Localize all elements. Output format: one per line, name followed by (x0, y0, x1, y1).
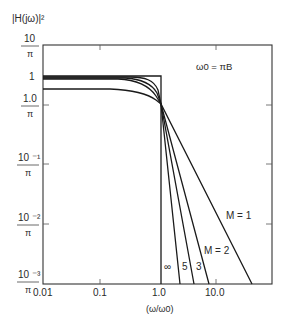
x-ticks (100, 45, 216, 284)
svg-text:∞: ∞ (164, 261, 171, 272)
filter-response-chart: |H(jω)|² 10 π 1 1.0 π 10 ⁻¹ π 10 ⁻² π 10… (0, 0, 283, 327)
svg-text:π: π (27, 49, 33, 59)
svg-text:1.0: 1.0 (23, 93, 37, 104)
curve-m3 (43, 78, 194, 284)
svg-text:10 ⁻²: 10 ⁻² (18, 212, 41, 223)
svg-text:π: π (25, 228, 31, 238)
y-ticks (43, 105, 272, 224)
svg-text:π: π (27, 109, 33, 119)
svg-text:10: 10 (24, 33, 36, 44)
svg-text:3: 3 (196, 261, 202, 272)
svg-text:0.01: 0.01 (33, 287, 53, 298)
omega0-annotation: ω0 = πB (196, 61, 232, 72)
svg-text:M = 1: M = 1 (226, 210, 252, 221)
svg-text:π: π (25, 168, 31, 178)
x-tick-labels: 0.01 0.1 1.0 10.0 (33, 287, 225, 298)
plot-frame (43, 45, 272, 284)
y-axis-label: |H(jω)|² (12, 13, 45, 24)
svg-text:M = 2: M = 2 (204, 245, 230, 256)
svg-text:π: π (25, 285, 31, 295)
curve-m2 (43, 79, 209, 284)
svg-text:10.0: 10.0 (205, 287, 225, 298)
svg-text:10 ⁻¹: 10 ⁻¹ (18, 152, 41, 163)
curve-m5 (43, 77, 180, 284)
svg-text:10 ⁻³: 10 ⁻³ (18, 269, 41, 280)
svg-text:1.0: 1.0 (152, 287, 166, 298)
y-tick-labels: 10 π 1 1.0 π 10 ⁻¹ π 10 ⁻² π 10 ⁻³ π (17, 33, 41, 295)
x-axis-label: (ω/ω0) (146, 304, 174, 314)
svg-text:0.1: 0.1 (93, 287, 107, 298)
curve-m-inf (43, 76, 161, 284)
svg-text:1: 1 (29, 71, 35, 82)
svg-text:5: 5 (182, 261, 188, 272)
